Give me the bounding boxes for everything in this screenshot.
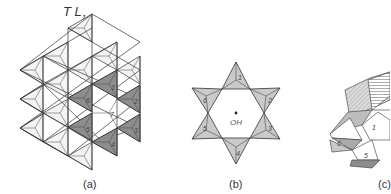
svg-text:2: 2: [133, 98, 138, 105]
panel-b-hexagonal-ring: [192, 62, 280, 164]
svg-text:1: 1: [372, 124, 376, 131]
svg-text:4: 4: [236, 150, 240, 157]
svg-text:5: 5: [86, 126, 90, 133]
svg-text:3: 3: [134, 127, 138, 134]
svg-text:6: 6: [86, 97, 90, 104]
panel-c-perspective-layer: [330, 72, 390, 168]
panel-b-caption: (b): [229, 178, 242, 190]
svg-text:4: 4: [111, 141, 115, 148]
panel-a-caption: (a): [83, 178, 96, 190]
svg-text:1: 1: [238, 74, 242, 81]
svg-text:2: 2: [267, 97, 272, 104]
svg-text:3: 3: [268, 125, 272, 132]
svg-text:5: 5: [203, 125, 207, 132]
oh-center-dot: [235, 112, 238, 115]
oh-label: OH: [230, 118, 242, 127]
svg-text:7: 7: [110, 111, 115, 118]
svg-text:6: 6: [203, 97, 207, 104]
svg-text:6: 6: [337, 140, 341, 147]
svg-text:1: 1: [111, 84, 115, 91]
panel-c-caption: (c): [378, 178, 391, 190]
panel-a-tetrahedral-layer: [20, 14, 140, 170]
svg-text:5: 5: [364, 152, 368, 159]
